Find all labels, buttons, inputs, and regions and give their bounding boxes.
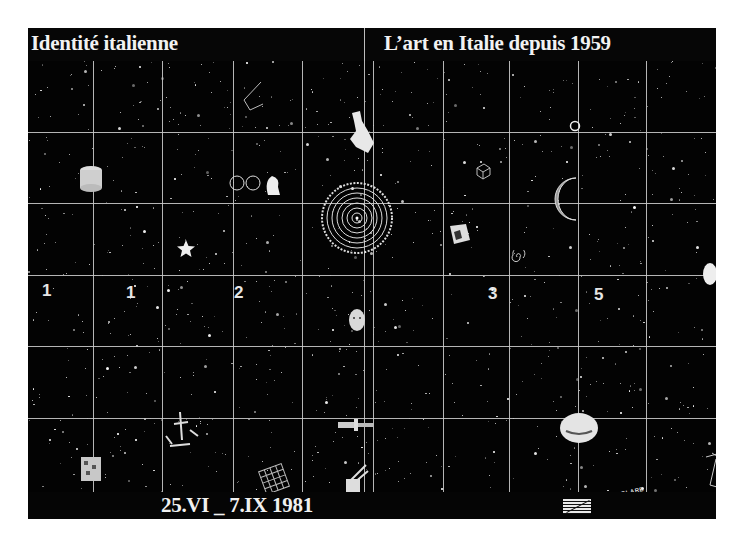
spiral-icon [508, 250, 526, 264]
wireframe-figure-icon [704, 445, 716, 495]
grid-line [28, 275, 716, 276]
coin-disc-icon [558, 411, 600, 445]
grid-line [302, 61, 303, 492]
digit-1-mark: 1 [42, 281, 51, 301]
portrait-face-icon [347, 306, 367, 336]
pattern-card-icon [80, 456, 102, 482]
tin-can-icon [78, 164, 104, 194]
grid-line [233, 61, 234, 492]
grid-line [443, 61, 444, 492]
digit-3: 3 [488, 284, 497, 304]
header-divider [364, 28, 365, 61]
concentric-circles-icon [319, 180, 395, 256]
poster-footer: 25.VI _ 7.IX 1981 [28, 492, 716, 519]
photo-tile-icon [446, 222, 472, 248]
crescent-icon [569, 120, 581, 132]
satellite-icon [338, 417, 376, 433]
mask-face-icon [702, 261, 716, 287]
heads-profile-icon [228, 173, 283, 197]
wireframe-cube-icon [474, 162, 492, 180]
grid-line [93, 61, 94, 492]
grid-line [28, 346, 716, 347]
constellation-grid: 1 1 2 3 5 PARTICOLARE [28, 61, 716, 492]
star-shape-icon [176, 239, 196, 259]
exhibition-poster: Identité italienne L’art en Italie depui… [28, 28, 716, 519]
moon-sphere-icon [554, 176, 598, 222]
grid-line [509, 61, 510, 492]
digit-5: 5 [594, 285, 603, 305]
digit-2: 2 [234, 283, 243, 303]
title-art-en-italie: L’art en Italie depuis 1959 [384, 31, 611, 56]
italy-map-icon [346, 109, 378, 157]
poster-header: Identité italienne L’art en Italie depui… [28, 28, 716, 61]
airplanes-icon [160, 410, 205, 450]
striped-logo-icon [563, 499, 591, 514]
constellation-lines-icon [241, 80, 265, 112]
digit-1: 1 [126, 283, 135, 303]
title-identite-italienne: Identité italienne [31, 31, 178, 56]
grid-line [646, 61, 647, 492]
exhibition-dates: 25.VI _ 7.IX 1981 [161, 493, 313, 518]
